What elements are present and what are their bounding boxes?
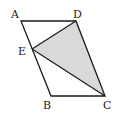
label-d: D — [73, 8, 82, 21]
label-c: C — [103, 99, 111, 112]
shaded-triangle-edc — [32, 21, 105, 96]
label-b: B — [43, 99, 51, 112]
parallelogram-diagram: A D E B C — [0, 0, 114, 115]
label-a: A — [10, 8, 20, 21]
label-e: E — [18, 45, 26, 58]
